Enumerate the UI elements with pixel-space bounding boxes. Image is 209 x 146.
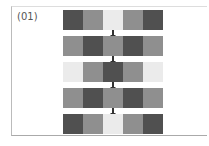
- color-cell-dark: [123, 36, 143, 56]
- color-cell-dark: [143, 10, 163, 30]
- color-row: [63, 88, 163, 108]
- color-cell-mid: [103, 88, 123, 108]
- color-cell-mid: [83, 10, 103, 30]
- color-cell-dark: [123, 88, 143, 108]
- figure-label: (01): [17, 11, 38, 22]
- color-cell-mid: [83, 62, 103, 82]
- color-cell-dark: [143, 114, 163, 134]
- color-row: [63, 114, 163, 134]
- color-cell-mid: [123, 62, 143, 82]
- color-cell-light: [103, 10, 123, 30]
- color-cell-mid: [143, 88, 163, 108]
- color-cell-mid: [63, 36, 83, 56]
- color-cell-mid: [103, 36, 123, 56]
- color-cell-dark: [63, 114, 83, 134]
- color-cell-light: [143, 62, 163, 82]
- color-cell-mid: [63, 88, 83, 108]
- color-cell-dark: [103, 62, 123, 82]
- color-cell-mid: [123, 10, 143, 30]
- color-cell-mid: [143, 36, 163, 56]
- color-cell-dark: [63, 10, 83, 30]
- color-cell-dark: [83, 88, 103, 108]
- color-cell-dark: [83, 36, 103, 56]
- color-row: [63, 36, 163, 56]
- color-cell-light: [103, 114, 123, 134]
- color-cell-light: [63, 62, 83, 82]
- color-row: [63, 62, 163, 82]
- color-cell-mid: [123, 114, 143, 134]
- color-cell-mid: [83, 114, 103, 134]
- color-row: [63, 10, 163, 30]
